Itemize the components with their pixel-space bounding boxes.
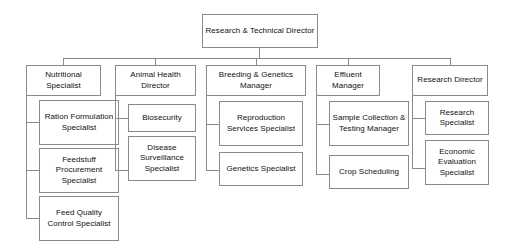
node-dept-3-child-2-label: Genetics Specialist: [222, 164, 300, 175]
connector-stub-dept-5-child-2: [412, 168, 425, 169]
node-dept-5-child-2-label: Economic Evaluation Specialist: [428, 147, 486, 179]
node-dept-1-label: Nutritional Specialist: [29, 70, 98, 91]
node-dept-1-child-3[interactable]: Feed Quality Control Specialist: [39, 196, 119, 241]
connector-stub-dept-3-child-2: [206, 170, 219, 171]
node-dept-2-child-1-label: Biosecurity: [131, 113, 193, 124]
node-dept-2-child-1[interactable]: Biosecurity: [128, 104, 196, 132]
node-dept-5-child-2[interactable]: Economic Evaluation Specialist: [425, 140, 489, 185]
node-dept-3[interactable]: Breeding & Genetics Manager: [206, 65, 306, 96]
connector-trunk-dept-3: [206, 96, 207, 170]
connector-stub-dept-4-child-2: [316, 174, 329, 175]
node-dept-3-child-2[interactable]: Genetics Specialist: [219, 152, 303, 186]
connector-drop-dept-2: [155, 58, 156, 65]
node-dept-4-child-1-label: Sample Collection & Testing Manager: [332, 113, 406, 134]
connector-stub-dept-1-child-3: [26, 218, 39, 219]
connector-stub-dept-3-child-1: [206, 124, 219, 125]
node-dept-5-label: Research Director: [415, 75, 485, 86]
node-dept-4[interactable]: Effluent Manager: [316, 65, 380, 96]
connector-drop-dept-5: [450, 58, 451, 65]
node-dept-1-child-2-label: Feedstuff Procurement Specialist: [42, 155, 116, 187]
connector-drop-dept-4: [348, 58, 349, 65]
node-dept-4-child-1[interactable]: Sample Collection & Testing Manager: [329, 101, 409, 146]
node-dept-5-child-1[interactable]: Research Specialist: [425, 101, 489, 135]
connector-trunk-dept-5: [412, 96, 413, 168]
connector-drop-dept-3: [256, 58, 257, 65]
node-dept-1-child-1[interactable]: Ration Formulation Specialist: [39, 100, 119, 145]
connector-stub-dept-2-child-2: [115, 170, 128, 171]
node-dept-3-child-1[interactable]: Reproduction Services Specialist: [219, 101, 303, 146]
node-dept-1[interactable]: Nutritional Specialist: [26, 65, 101, 96]
node-dept-1-child-1-label: Ration Formulation Specialist: [42, 112, 116, 133]
node-dept-3-child-1-label: Reproduction Services Specialist: [222, 113, 300, 134]
node-root-label: Research & Technical Director: [205, 26, 315, 37]
connector-trunk-dept-1: [26, 96, 27, 218]
node-dept-5[interactable]: Research Director: [412, 65, 488, 96]
node-dept-1-child-2[interactable]: Feedstuff Procurement Specialist: [39, 148, 119, 193]
connector-drop-dept-1: [63, 58, 64, 65]
connector-stub-dept-4-child-1: [316, 124, 329, 125]
node-dept-3-label: Breeding & Genetics Manager: [209, 70, 303, 91]
node-dept-2-label: Animal Health Director: [118, 70, 193, 91]
node-dept-2-child-2[interactable]: Disease Surveillance Specialist: [128, 136, 196, 181]
node-root[interactable]: Research & Technical Director: [202, 14, 318, 48]
connector-stub-dept-5-child-1: [412, 118, 425, 119]
node-dept-2[interactable]: Animal Health Director: [115, 65, 196, 96]
node-dept-4-label: Effluent Manager: [319, 70, 377, 91]
connector-stub-dept-1-child-1: [26, 122, 39, 123]
node-dept-4-child-2[interactable]: Crop Scheduling: [329, 155, 409, 189]
node-dept-2-child-2-label: Disease Surveillance Specialist: [131, 143, 193, 175]
node-dept-5-child-1-label: Research Specialist: [428, 108, 486, 129]
connector-trunk-dept-4: [316, 96, 317, 174]
node-dept-4-child-2-label: Crop Scheduling: [332, 167, 406, 178]
connector-stub-dept-1-child-2: [26, 170, 39, 171]
connector-stub-dept-2-child-1: [115, 118, 128, 119]
node-dept-1-child-3-label: Feed Quality Control Specialist: [42, 208, 116, 229]
connector-trunk-dept-2: [115, 96, 116, 170]
org-chart: Research & Technical Director Nutritiona…: [0, 0, 506, 250]
